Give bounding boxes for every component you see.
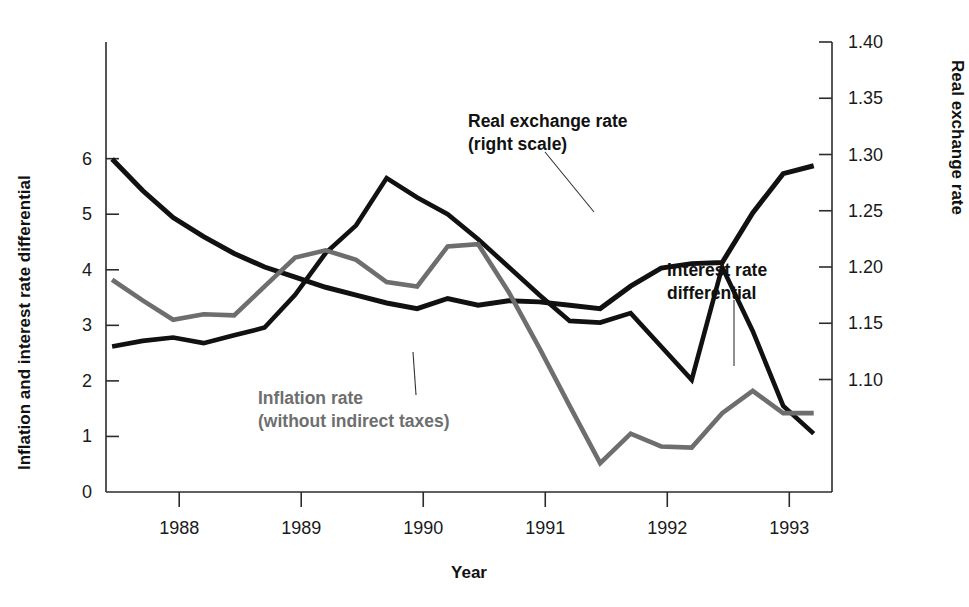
x-tick-label: 1989 bbox=[281, 518, 321, 538]
annotation-line-1: Real exchange rate bbox=[468, 111, 628, 131]
right-tick-label: 1.25 bbox=[848, 201, 883, 221]
left-axis-title: Inflation and interest rate differential bbox=[15, 175, 34, 470]
left-tick-label: 5 bbox=[82, 204, 92, 224]
left-tick-label: 2 bbox=[82, 371, 92, 391]
x-tick-label: 1990 bbox=[403, 518, 443, 538]
annotation-line-1: Inflation rate bbox=[258, 388, 363, 408]
right-tick-label: 1.35 bbox=[848, 88, 883, 108]
x-tick-label: 1988 bbox=[159, 518, 199, 538]
left-tick-label: 4 bbox=[82, 260, 92, 280]
left-tick-label: 0 bbox=[82, 482, 92, 502]
chart-svg: 0123456 1.101.151.201.251.301.351.40 198… bbox=[0, 0, 969, 607]
annotation-line-2: (right scale) bbox=[468, 134, 567, 154]
right-tick-label: 1.40 bbox=[848, 32, 883, 52]
right-axis-title: Real exchange rate bbox=[948, 60, 967, 215]
x-tick-label: 1993 bbox=[769, 518, 809, 538]
right-tick-label: 1.15 bbox=[848, 313, 883, 333]
x-axis-title: Year bbox=[451, 563, 487, 582]
annotation-line-2: (without indirect taxes) bbox=[258, 411, 450, 431]
x-tick-label: 1992 bbox=[647, 518, 687, 538]
left-tick-label: 1 bbox=[82, 426, 92, 446]
right-tick-label: 1.20 bbox=[848, 257, 883, 277]
chart-figure: 0123456 1.101.151.201.251.301.351.40 198… bbox=[0, 0, 969, 607]
right-tick-label: 1.30 bbox=[848, 145, 883, 165]
annotation-line-2: differential bbox=[667, 283, 756, 303]
right-tick-label: 1.10 bbox=[848, 370, 883, 390]
left-tick-label: 6 bbox=[82, 149, 92, 169]
x-tick-label: 1991 bbox=[525, 518, 565, 538]
annotation-line-1: Interest rate bbox=[667, 260, 767, 280]
left-tick-label: 3 bbox=[82, 315, 92, 335]
